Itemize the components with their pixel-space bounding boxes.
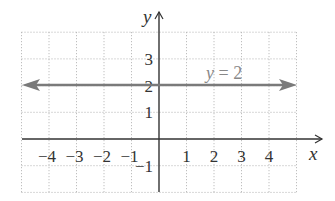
x-tick-label: 3 <box>237 147 246 166</box>
y-tick-label: −1 <box>135 157 153 176</box>
x-tick-label: 4 <box>265 147 274 166</box>
coordinate-plane: x y −4−3−2−11234 −1123 y = 2 <box>0 0 335 201</box>
x-tick-labels: −4−3−2−11234 <box>38 147 274 166</box>
y-tick-labels: −1123 <box>135 50 153 176</box>
x-tick-label: −3 <box>65 147 83 166</box>
y-tick-label: 3 <box>145 50 154 69</box>
y-axis-label: y <box>141 6 152 27</box>
line-label: y = 2 <box>204 63 242 83</box>
x-tick-label: 1 <box>182 147 191 166</box>
y-tick-label: 1 <box>145 103 154 122</box>
x-axis-label: x <box>308 143 318 164</box>
x-tick-label: 2 <box>210 147 219 166</box>
x-tick-label: −4 <box>38 147 57 166</box>
x-tick-label: −2 <box>93 147 111 166</box>
